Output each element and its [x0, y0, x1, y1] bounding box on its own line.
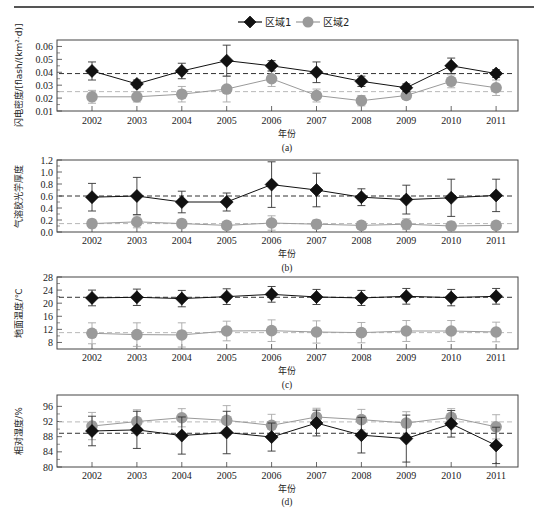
chart-panel-a: 0.010.020.030.040.050.062002200320042005… — [13, 24, 518, 154]
y-tick-label: 0.05 — [36, 54, 54, 65]
legend-label-region2: 区域2 — [323, 16, 349, 28]
y-tick-label: 0.01 — [36, 106, 54, 117]
y-tick-label: 28 — [43, 272, 53, 283]
diamond-marker-icon — [355, 75, 368, 88]
diamond-marker-icon — [175, 429, 188, 442]
x-tick-label: 2006 — [262, 352, 282, 363]
x-tick-label: 2003 — [127, 115, 147, 126]
circle-marker-icon — [311, 90, 323, 102]
x-tick-label: 2002 — [82, 352, 102, 363]
diamond-marker-icon — [445, 191, 458, 204]
diamond-marker-icon — [310, 290, 323, 303]
y-tick-label: 88 — [43, 431, 53, 442]
plot-frame — [57, 277, 518, 349]
x-tick-label: 2006 — [262, 115, 282, 126]
y-tick-label: 0.04 — [36, 67, 54, 78]
circle-marker-icon — [445, 325, 457, 337]
y-tick-label: 12 — [43, 324, 53, 335]
x-tick-label: 2010 — [441, 115, 461, 126]
x-tick-label: 2004 — [172, 470, 192, 481]
circle-marker-icon — [266, 73, 278, 85]
circle-marker-icon — [356, 220, 368, 232]
panel-caption: (b) — [281, 263, 292, 274]
diamond-marker-icon — [490, 189, 503, 202]
y-tick-label: 24 — [43, 285, 53, 296]
series-region2 — [86, 71, 502, 106]
circle-marker-icon — [490, 220, 502, 232]
y-tick-label: 80 — [43, 462, 53, 473]
plot-frame — [57, 395, 518, 467]
diamond-marker-icon — [490, 439, 503, 452]
x-tick-label: 2006 — [262, 470, 282, 481]
y-tick-label: 1.0 — [41, 167, 54, 178]
diamond-marker-icon — [244, 16, 256, 28]
diamond-marker-icon — [265, 288, 278, 301]
x-tick-label: 2010 — [441, 352, 461, 363]
diamond-marker-icon — [310, 184, 323, 197]
circle-marker-icon — [445, 220, 457, 232]
circle-marker-icon — [221, 83, 233, 95]
diamond-marker-icon — [130, 423, 143, 436]
diamond-marker-icon — [86, 191, 99, 204]
x-axis-label: 年份 — [278, 365, 296, 376]
series-region1 — [86, 162, 503, 217]
diamond-marker-icon — [490, 67, 503, 80]
x-tick-label: 2007 — [307, 115, 327, 126]
x-tick-label: 2008 — [351, 470, 371, 481]
circle-marker-icon — [221, 325, 233, 337]
diamond-marker-icon — [175, 196, 188, 209]
diamond-marker-icon — [86, 64, 99, 77]
x-tick-label: 2011 — [486, 115, 506, 126]
y-tick-label: 0.4 — [41, 203, 54, 214]
diamond-marker-icon — [355, 191, 368, 204]
y-axis-label: 地面温度/℃ — [13, 288, 24, 337]
diamond-marker-icon — [175, 64, 188, 77]
y-axis-label: 相对湿度/% — [13, 407, 24, 455]
x-tick-label: 2002 — [82, 115, 102, 126]
circle-marker-icon — [356, 95, 368, 107]
y-tick-label: 8 — [48, 337, 53, 348]
circle-marker-icon — [86, 327, 98, 339]
diamond-marker-icon — [400, 432, 413, 445]
x-tick-label: 2010 — [441, 470, 461, 481]
x-tick-label: 2011 — [486, 352, 506, 363]
circle-marker-icon — [303, 17, 314, 28]
y-tick-label: 0.2 — [41, 215, 54, 226]
chart-panels: 0.010.020.030.040.050.062002200320042005… — [13, 24, 518, 508]
x-tick-label: 2005 — [217, 470, 237, 481]
circle-marker-icon — [490, 82, 502, 94]
x-tick-label: 2011 — [486, 235, 506, 246]
diamond-marker-icon — [400, 193, 413, 206]
circle-marker-icon — [266, 217, 278, 229]
circle-marker-icon — [176, 88, 188, 100]
panel-caption: (c) — [282, 380, 293, 391]
diamond-marker-icon — [175, 292, 188, 305]
y-tick-label: 84 — [43, 446, 53, 457]
x-tick-label: 2003 — [127, 235, 147, 246]
circle-marker-icon — [86, 91, 98, 103]
x-tick-label: 2009 — [396, 352, 416, 363]
diamond-marker-icon — [220, 54, 233, 67]
circle-marker-icon — [356, 327, 368, 339]
x-tick-label: 2004 — [172, 352, 192, 363]
y-tick-label: 0.06 — [36, 41, 54, 52]
y-tick-label: 0.02 — [36, 93, 54, 104]
circle-marker-icon — [86, 218, 98, 230]
x-tick-label: 2011 — [486, 470, 506, 481]
circle-marker-icon — [266, 325, 278, 337]
circle-marker-icon — [221, 220, 233, 232]
series-region2 — [86, 320, 502, 347]
x-tick-label: 2007 — [307, 470, 327, 481]
circle-marker-icon — [311, 326, 323, 338]
chart-panel-d: 8084889296200220032004200520062007200820… — [13, 395, 518, 508]
x-tick-label: 2008 — [351, 235, 371, 246]
diamond-marker-icon — [265, 431, 278, 444]
y-tick-label: 92 — [43, 416, 53, 427]
y-tick-label: 0.03 — [36, 80, 54, 91]
y-tick-label: 20 — [43, 298, 53, 309]
diamond-marker-icon — [220, 426, 233, 439]
x-tick-label: 2010 — [441, 235, 461, 246]
y-axis-label: 气溶胶光学厚度 — [13, 165, 24, 228]
circle-marker-icon — [131, 91, 143, 103]
diamond-marker-icon — [220, 196, 233, 209]
